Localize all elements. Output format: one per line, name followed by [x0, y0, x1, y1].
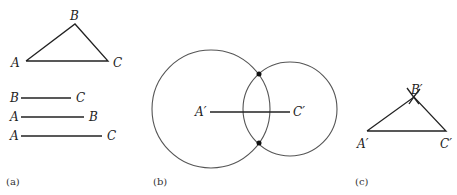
- panel-b: A′ C′ (b): [152, 50, 337, 187]
- segment-ab-right: B: [88, 110, 98, 124]
- construction-diagram: B A C B C A B A C (a) A′ C′ (b) B′ A′ C′…: [0, 0, 457, 195]
- segment-ab-left: A: [9, 110, 19, 124]
- segment-bc-left: B: [9, 91, 19, 105]
- caption-a: (a): [6, 176, 20, 187]
- intersection-point-bottom: [257, 141, 262, 146]
- intersection-point-top: [257, 72, 262, 77]
- label-c-prime: C′: [293, 105, 305, 119]
- label-a: A: [10, 56, 20, 70]
- label-a-prime: A′: [194, 105, 207, 119]
- caption-c: (c): [355, 176, 369, 187]
- caption-b: (b): [153, 176, 167, 187]
- segment-ac-right: C: [107, 129, 116, 143]
- panel-c: B′ A′ C′ (c): [355, 83, 452, 187]
- triangle-a-prime-b-prime-c-prime: [367, 97, 446, 131]
- triangle-abc: [26, 24, 108, 61]
- circle-centered-a: [152, 50, 270, 168]
- label-b: B: [69, 9, 79, 23]
- segment-ac-left: A: [9, 129, 19, 143]
- panel-a: B A C B C A B A C (a): [6, 9, 122, 187]
- label-c: C: [113, 56, 122, 70]
- label-c-prime-c: C′: [440, 137, 452, 151]
- label-a-prime-c: A′: [356, 137, 369, 151]
- segment-bc-right: C: [76, 91, 85, 105]
- label-b-prime: B′: [410, 83, 423, 97]
